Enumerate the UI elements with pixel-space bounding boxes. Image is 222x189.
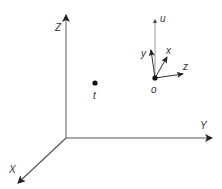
local-z-axis	[155, 74, 183, 78]
local-x-axis	[155, 57, 167, 78]
y-axis-label: Y	[200, 120, 208, 131]
local-frame: u y x z o	[140, 13, 188, 95]
z-axis-label: Z	[54, 22, 62, 33]
local-y-axis-label: y	[140, 48, 147, 59]
point-t-label: t	[93, 90, 97, 101]
point-t: t	[92, 80, 97, 101]
local-x-axis-label: x	[165, 45, 172, 56]
u-axis-label: u	[160, 13, 166, 24]
local-origin-label: o	[151, 84, 157, 95]
global-frame: Z Y X	[8, 15, 212, 183]
point-t-dot	[92, 80, 97, 85]
local-z-axis-label: z	[182, 61, 188, 72]
coordinate-diagram: Z Y X t u y x z o	[0, 0, 222, 189]
local-origin-dot	[152, 75, 157, 80]
x-axis-label: X	[8, 164, 16, 175]
x-axis	[18, 138, 66, 183]
